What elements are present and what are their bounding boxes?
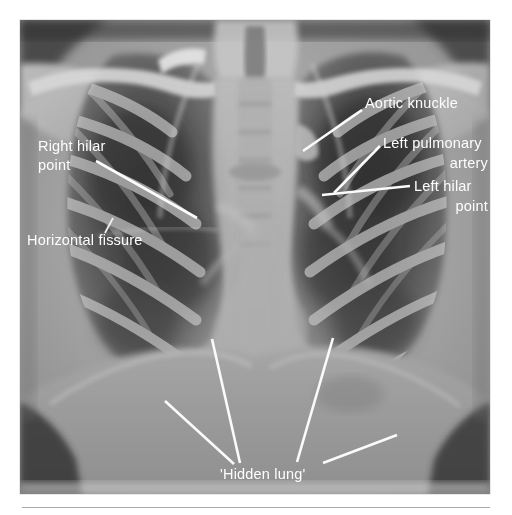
chest-xray-image xyxy=(20,20,490,494)
figure-footer-rule xyxy=(22,507,490,508)
radiograph-body xyxy=(20,20,490,494)
figure-root: Right hilar point Horizontal fissure Aor… xyxy=(0,0,512,515)
film-grain xyxy=(20,20,490,494)
radiograph-canvas xyxy=(20,20,490,494)
